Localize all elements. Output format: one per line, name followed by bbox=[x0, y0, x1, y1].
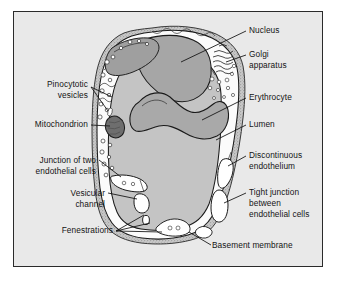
label-golgi-apparatus: Golgiapparatus bbox=[249, 49, 287, 70]
label-fenestrations: Fenestrations bbox=[62, 225, 113, 235]
capillary-diagram: Nucleus Golgiapparatus Erythrocyte Lumen… bbox=[0, 0, 338, 282]
label-mitochondrion: Mitochondrion bbox=[35, 119, 88, 129]
screenshot-root: Nucleus Golgiapparatus Erythrocyte Lumen… bbox=[0, 0, 338, 282]
label-vesicular-channel: Vesicularchannel bbox=[71, 188, 106, 209]
label-lumen: Lumen bbox=[249, 119, 275, 129]
label-junction-of-two-endothelial-cells: Junction of twoendothelial cells bbox=[36, 155, 97, 176]
label-tight-junction: Tight junctionbetweenendothelial cells bbox=[249, 187, 309, 219]
label-pinocytotic-vesicles: Pinocytoticvesicles bbox=[47, 79, 88, 100]
label-erythrocyte: Erythrocyte bbox=[249, 92, 292, 102]
label-nucleus: Nucleus bbox=[249, 25, 280, 35]
label-basement-membrane: Basement membrane bbox=[212, 240, 293, 250]
tight-junction-shape bbox=[211, 190, 228, 222]
vesicular-channel-shape bbox=[134, 194, 149, 213]
label-discontinuous-endothelium: Discontinuousendothelium bbox=[249, 150, 302, 171]
